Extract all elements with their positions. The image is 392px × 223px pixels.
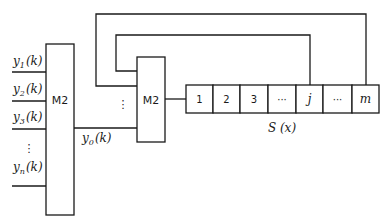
register-cell-label: ··· — [333, 94, 343, 105]
input-label-3: y3(k) — [12, 110, 43, 126]
register-cell-label: 2 — [223, 94, 229, 105]
y0-label: y0(k) — [81, 131, 112, 147]
right-m2-label: M2 — [143, 94, 160, 107]
register-cell-label: 3 — [251, 94, 257, 105]
register-cell-label: 1 — [196, 94, 202, 105]
input-label-1: y1(k) — [12, 54, 43, 70]
shift-register: 123···j···m — [186, 85, 379, 113]
left-m2-label: M2 — [52, 94, 69, 107]
register-cell-label: m — [360, 92, 371, 106]
right-mux-ellipsis: ⋮ — [118, 98, 129, 111]
diagram-canvas: M2 y1(k) y2(k) y3(k) ⋮ yn(k) y0(k) M2 ⋮ … — [0, 0, 392, 223]
register-label: S (x) — [268, 121, 296, 135]
left-m2-block — [46, 44, 74, 215]
input-ellipsis: ⋮ — [24, 142, 35, 155]
input-label-2: y2(k) — [12, 82, 43, 98]
register-cell-label: ··· — [277, 94, 287, 105]
input-label-n: yn(k) — [12, 160, 43, 176]
